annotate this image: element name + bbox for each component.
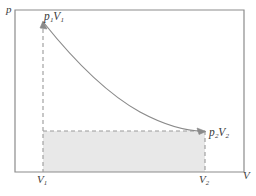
state-1-label: p1V1 [44, 11, 64, 23]
x-tick-v2-symbol: V [199, 173, 206, 185]
x-tick-v1-subscript: 1 [44, 179, 47, 186]
state-2-volume-subscript: 2 [225, 132, 229, 140]
x-tick-v2-subscript: 2 [206, 179, 209, 186]
isothermal-curve [44, 23, 203, 131]
x-tick-v1-symbol: V [37, 173, 44, 185]
work-area-shading [43, 131, 205, 172]
plot-canvas [0, 0, 256, 196]
y-axis-label: p [6, 4, 12, 15]
state-2-pressure-symbol: p [209, 126, 215, 138]
x-axis-label: V [243, 170, 250, 181]
x-tick-label-v1: V1 [37, 174, 47, 185]
state-2-pressure-subscript: 2 [215, 132, 219, 140]
state-1-pressure-subscript: 1 [50, 16, 54, 24]
state-1-volume-subscript: 1 [60, 16, 64, 24]
state-1-pressure-symbol: p [44, 10, 50, 22]
state-2-label: p2V2 [209, 127, 229, 139]
pv-diagram-figure: p V p1V1 p2V2 V1 V2 [0, 0, 256, 196]
x-tick-label-v2: V2 [199, 174, 209, 185]
